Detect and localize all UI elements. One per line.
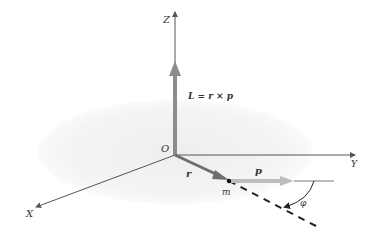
position-label: r (186, 168, 192, 179)
momentum-label: p (255, 165, 262, 176)
angle-label: φ (300, 198, 307, 208)
mass-point (227, 179, 231, 183)
y-axis-label: Y (351, 159, 358, 169)
mass-label: m (222, 187, 231, 197)
angular-momentum-arrowhead (169, 61, 181, 76)
z-axis-label: Z (162, 14, 171, 25)
angular-momentum-label: L = r × p (187, 91, 234, 101)
origin-label: O (161, 143, 169, 154)
angular-momentum-diagram: Z Y X O L = r × p r p m φ (0, 0, 378, 234)
x-axis-label: X (25, 208, 34, 219)
